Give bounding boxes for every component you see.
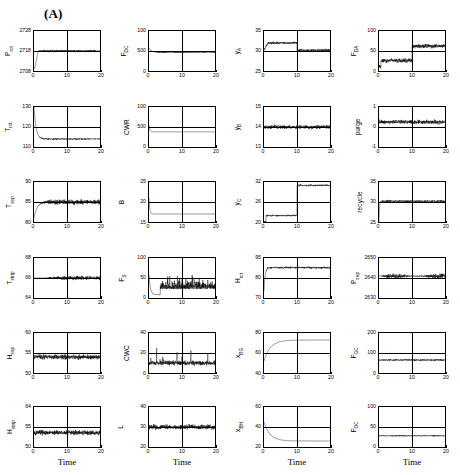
x-axis-ticks: 01020 (33, 148, 101, 157)
y-axis-label-subscript: DC (124, 46, 129, 53)
y-axis-label-text: T (5, 204, 12, 208)
y-axis-label-subscript: sep (10, 347, 15, 355)
y-tick-label: 100 (137, 28, 146, 33)
data-trace (34, 333, 100, 373)
plot-frame (263, 106, 331, 148)
x-axis-ticks: 01020 (263, 448, 331, 457)
y-tick-label: 55 (25, 350, 31, 355)
y-tick-label: 2728 (19, 28, 31, 33)
plot-frame (378, 181, 446, 223)
y-axis-label-text: T (4, 127, 11, 131)
y-tick-label: 30 (255, 48, 261, 53)
plot-panel-x-bg: xBG80604001020 (263, 332, 331, 374)
plot-cell: FS10050001020 (115, 249, 230, 325)
y-axis-label-text: F (120, 52, 127, 56)
y-axis-label: purge (354, 118, 361, 135)
y-axis-label-text: P (4, 51, 11, 55)
plot-cell: Hsep60555001020 (0, 324, 115, 400)
plot-panel-f-s: FS10050001020 (148, 257, 216, 299)
y-tick-label: 13 (255, 144, 261, 149)
x-tick-label: 0 (32, 300, 35, 305)
y-tick-label: 66 (25, 275, 31, 280)
plot-cell: Psep26502640263001020 (345, 249, 460, 325)
plot-cell: FOC10050001020Time (345, 400, 460, 475)
y-axis-label-text: F (350, 52, 357, 56)
y-tick-label: 40 (255, 371, 261, 376)
y-tick-label: 60 (255, 350, 261, 355)
y-tick-label: 80 (255, 275, 261, 280)
x-tick-label: 10 (294, 375, 300, 380)
y-axis-label-text: y (233, 51, 240, 54)
y-axis-label-subscript: OC (354, 421, 359, 428)
x-tick-label: 0 (32, 375, 35, 380)
plot-cell: CWR100500001020 (115, 98, 230, 174)
y-tick-label: 80 (255, 330, 261, 335)
y-axis-label: Hsep (6, 347, 15, 360)
y-tick-label: 14 (255, 124, 261, 129)
y-axis-label-text: H (234, 278, 241, 283)
y-tick-label: 40 (140, 404, 146, 409)
plot-cell: Hrct95807001020 (230, 249, 345, 325)
data-trace (264, 407, 330, 447)
plot-grid: Prct27282718270801020FDC100500001020yA35… (0, 22, 460, 475)
y-tick-label: 25 (255, 69, 261, 74)
plot-panel-y-b: yB15141301020 (263, 106, 331, 148)
x-tick-label: 0 (262, 449, 265, 454)
x-tick-label: 0 (262, 300, 265, 305)
x-axis-ticks: 01020 (33, 299, 101, 308)
plot-panel-x-bh: xBH60402001020Time (263, 406, 331, 448)
y-axis-label: yC (233, 199, 242, 206)
y-tick-label: 20 (140, 444, 146, 449)
figure-panel-label: (A) (44, 6, 63, 22)
y-axis-label: CWR (123, 119, 130, 135)
y-axis-label-subscript: rct (9, 46, 14, 51)
x-tick-label: 0 (377, 375, 380, 380)
plot-frame (263, 406, 331, 448)
plot-panel-f-gc: FGC200100001020 (378, 332, 446, 374)
plot-frame (33, 332, 101, 374)
y-axis-label: CWC (123, 345, 130, 361)
plot-cell: FDA10050001020 (345, 22, 460, 98)
plot-panel-cwc: CWC4020001020 (148, 332, 216, 374)
data-trace (34, 107, 100, 147)
y-axis-label-text: B (118, 200, 125, 204)
y-axis-label-subscript: rct (8, 122, 13, 127)
y-tick-label: 30 (370, 199, 376, 204)
x-tick-label: 0 (377, 224, 380, 229)
plot-cell: yB15141301020 (230, 98, 345, 174)
x-tick-label: 10 (64, 224, 70, 229)
y-axis-label-subscript: GC (354, 347, 359, 354)
data-trace (264, 107, 330, 147)
x-axis-label: Time (378, 457, 446, 467)
x-tick-label: 10 (409, 224, 415, 229)
plot-cell: Trct13012011001020 (0, 98, 115, 174)
plot-frame (33, 106, 101, 148)
plot-cell: Prct27282718270801020 (0, 22, 115, 98)
plot-frame (148, 181, 216, 223)
plot-frame (378, 106, 446, 148)
y-axis-label: FOC (350, 421, 359, 432)
data-trace (379, 258, 445, 298)
y-tick-label: 20 (140, 350, 146, 355)
y-axis-label: Prct (4, 46, 13, 56)
plot-frame (33, 406, 101, 448)
x-tick-label: 20 (328, 224, 334, 229)
x-tick-label: 0 (147, 224, 150, 229)
data-trace (34, 407, 100, 447)
plot-panel-t-sep: Tsep90858001020 (33, 181, 101, 223)
y-axis-label-subscript: C (237, 199, 242, 202)
plot-cell: yA35302501020 (230, 22, 345, 98)
y-tick-label: 2640 (364, 275, 376, 280)
y-tick-label: 20 (140, 199, 146, 204)
y-tick-label: -1 (371, 144, 376, 149)
x-axis-ticks: 01020 (33, 72, 101, 81)
plot-panel-h-sep: Hsep60555001020 (33, 332, 101, 374)
x-axis-ticks: 01020 (33, 374, 101, 383)
plot-frame (148, 332, 216, 374)
y-axis-label-text: CWC (123, 345, 130, 361)
y-tick-label: 64 (25, 295, 31, 300)
plot-panel-p-rct: Prct27282718270801020 (33, 30, 101, 72)
y-axis-label-subscript: sep (10, 196, 15, 204)
x-tick-label: 20 (443, 149, 449, 154)
y-axis-label: FDA (350, 46, 359, 57)
